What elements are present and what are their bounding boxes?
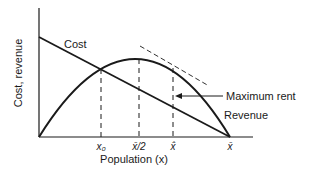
tick-xbar-half: x̄/2 [131, 141, 146, 152]
arrowhead-icon [175, 93, 182, 99]
y-axis-title: Cost, revenue [12, 39, 24, 107]
max-rent-label: Maximum rent [226, 90, 296, 102]
tick-x0: x₀ [95, 141, 105, 152]
cost-line [39, 37, 230, 137]
tangent-line [140, 46, 209, 86]
cost-revenue-diagram: Cost Maximum rent Revenue Cost, revenue … [0, 0, 314, 174]
revenue-label: Revenue [224, 109, 268, 121]
tick-xhat: x̂ [170, 141, 177, 152]
revenue-curve [39, 59, 230, 137]
tick-xbar: x̄ [227, 141, 234, 152]
cost-label: Cost [64, 38, 87, 50]
x-axis-title: Population (x) [100, 153, 168, 165]
